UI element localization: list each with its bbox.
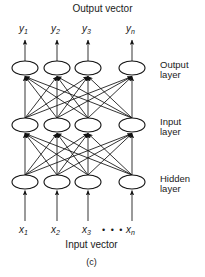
neuron-node-input (119, 118, 145, 132)
network-graphic (0, 0, 205, 277)
neuron-node-hidden (119, 175, 145, 189)
neuron-node-output (119, 61, 145, 75)
neuron-node-hidden (75, 175, 101, 189)
neuron-node-output (44, 61, 70, 75)
neuron-node-output (12, 61, 38, 75)
neuron-node-input (44, 118, 70, 132)
neural-network-figure: Output vector y1 y2 y3 yn Output layer I… (0, 0, 205, 277)
neuron-node-hidden (44, 175, 70, 189)
neuron-node-hidden (12, 175, 38, 189)
neuron-node-input (12, 118, 38, 132)
neuron-node-input (75, 118, 101, 132)
neuron-node-output (75, 61, 101, 75)
